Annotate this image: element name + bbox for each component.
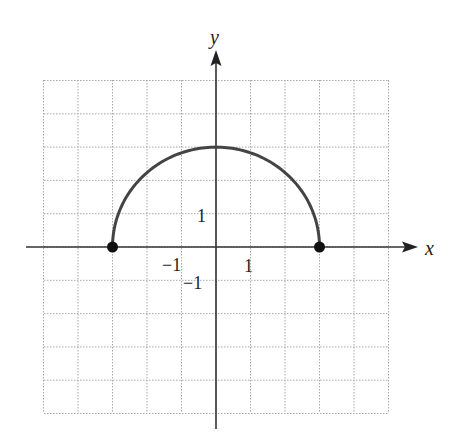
endpoint-dot-left (107, 242, 118, 253)
x-axis-label: x (424, 237, 434, 259)
x-tick-label-pos1: 1 (244, 256, 253, 276)
y-axis-label: y (208, 26, 219, 49)
y-tick-label-neg1: −1 (183, 273, 202, 293)
axes (26, 50, 418, 429)
y-tick-label-pos1: 1 (197, 206, 206, 226)
x-tick-label-neg1: −1 (162, 255, 181, 275)
endpoint-dot-right (314, 242, 325, 253)
graph-canvas: y x 1 −1 1 −1 (0, 0, 454, 447)
